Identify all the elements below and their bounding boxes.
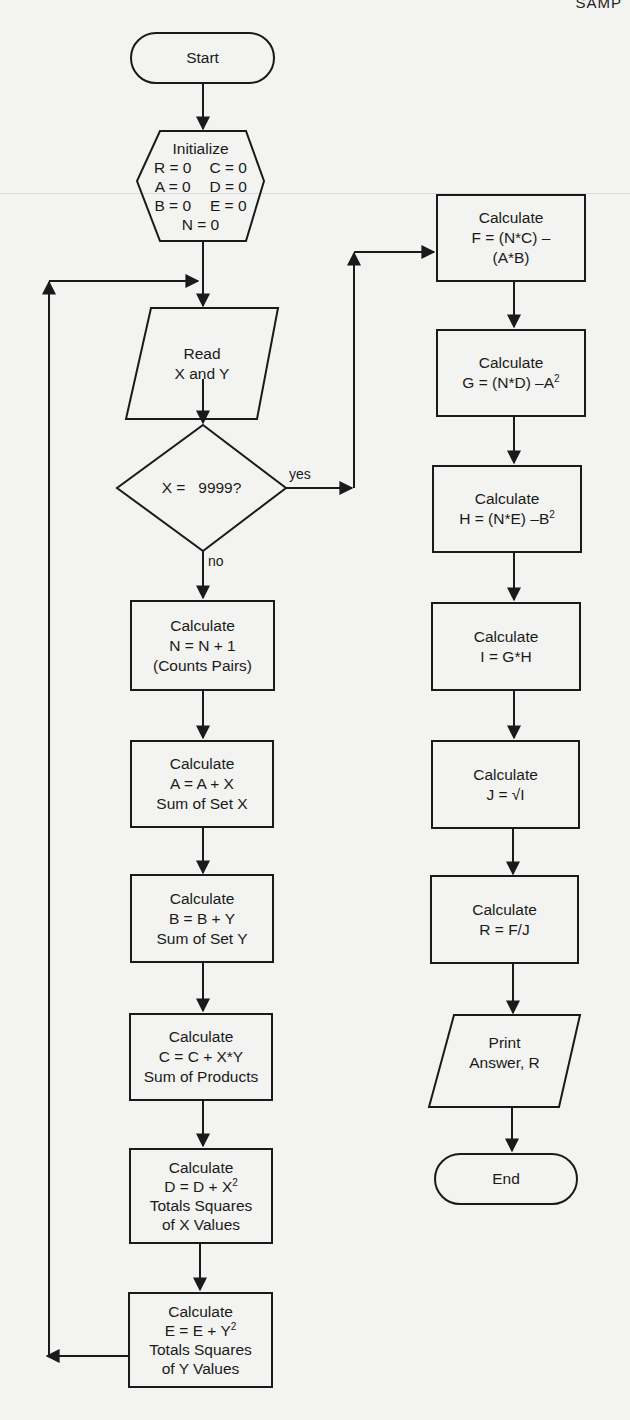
step-formula: I = G*H xyxy=(480,647,531,667)
step-title: Calculate xyxy=(170,889,235,909)
formula-base: G = (N*D) –A xyxy=(462,374,554,391)
step-title: Calculate xyxy=(475,489,540,509)
step-title: Calculate xyxy=(170,754,235,774)
step-formula: R = F/J xyxy=(479,920,529,940)
print-line2: Answer, R xyxy=(469,1053,540,1073)
formula-exponent: 2 xyxy=(554,373,560,384)
step-formula: G = (N*D) –A2 xyxy=(462,373,559,393)
step-title: Calculate xyxy=(472,900,537,920)
step-title: Calculate xyxy=(169,1158,234,1177)
start-terminal: Start xyxy=(130,32,275,84)
decision-no-label: no xyxy=(208,553,224,569)
step-formula: F = (N*C) – xyxy=(472,228,551,248)
decision-yes-label: yes xyxy=(289,466,311,482)
step-note: Totals Squares xyxy=(150,1196,253,1215)
formula-exponent: 2 xyxy=(549,509,555,520)
step-formula: N = N + 1 xyxy=(169,636,235,656)
step-title: Calculate xyxy=(473,765,538,785)
calc-c-box: Calculate C = C + X*Y Sum of Products xyxy=(129,1013,273,1101)
step-title: Calculate xyxy=(479,208,544,228)
step-title: Calculate xyxy=(170,616,235,636)
calc-f-box: Calculate F = (N*C) – (A*B) xyxy=(436,194,586,282)
init-c: C = 0 xyxy=(210,158,247,177)
step-formula-2: (A*B) xyxy=(492,248,529,268)
step-formula: J = √I xyxy=(486,785,524,805)
print-block: Print Answer, R xyxy=(429,1007,580,1099)
step-note-2: of Y Values xyxy=(162,1359,240,1378)
calc-h-box: Calculate H = (N*E) –B2 xyxy=(432,465,582,553)
init-b: B = 0 xyxy=(154,196,191,215)
init-r: R = 0 xyxy=(154,158,191,177)
end-label: End xyxy=(492,1169,520,1189)
step-title: Calculate xyxy=(168,1302,233,1321)
init-n: N = 0 xyxy=(182,215,219,234)
step-formula: B = B + Y xyxy=(169,909,235,929)
step-title: Calculate xyxy=(169,1027,234,1047)
step-note: Sum of Products xyxy=(144,1067,259,1087)
calc-a-box: Calculate A = A + X Sum of Set X xyxy=(130,740,274,828)
decision-block: X = 9999? xyxy=(117,425,286,551)
calc-d-box: Calculate D = D + X2 Totals Squares of X… xyxy=(129,1148,273,1244)
step-note: Sum of Set Y xyxy=(156,929,247,949)
calc-r-box: Calculate R = F/J xyxy=(430,875,579,964)
calc-g-box: Calculate G = (N*D) –A2 xyxy=(436,329,586,417)
print-line1: Print xyxy=(489,1033,521,1053)
calc-e-box: Calculate E = E + Y2 Totals Squares of Y… xyxy=(128,1292,273,1388)
end-terminal: End xyxy=(434,1153,578,1205)
step-note-2: of X Values xyxy=(162,1215,240,1234)
formula-exponent: 2 xyxy=(231,1321,237,1332)
step-note: (Counts Pairs) xyxy=(153,656,252,676)
step-formula: E = E + Y2 xyxy=(165,1321,237,1340)
formula-base: H = (N*E) –B xyxy=(459,510,549,527)
read-block: Read X and Y xyxy=(126,308,278,419)
init-e: E = 0 xyxy=(210,196,247,215)
step-formula: A = A + X xyxy=(170,774,234,794)
calc-n-box: Calculate N = N + 1 (Counts Pairs) xyxy=(130,600,275,691)
formula-base: E = E + Y xyxy=(165,1322,231,1339)
init-a: A = 0 xyxy=(154,177,191,196)
start-label: Start xyxy=(186,48,219,68)
initialize-assignments: R = 0 C = 0 A = 0 D = 0 B = 0 E = 0 xyxy=(154,158,247,215)
init-d: D = 0 xyxy=(210,177,247,196)
calc-j-box: Calculate J = √I xyxy=(431,740,580,829)
step-formula: D = D + X2 xyxy=(164,1177,238,1196)
read-line1: Read xyxy=(183,344,220,364)
calc-i-box: Calculate I = G*H xyxy=(431,602,581,691)
step-note: Sum of Set X xyxy=(156,794,247,814)
calc-b-box: Calculate B = B + Y Sum of Set Y xyxy=(130,874,274,963)
decision-label: X = 9999? xyxy=(162,478,242,498)
initialize-block: Initialize R = 0 C = 0 A = 0 D = 0 B = 0… xyxy=(137,131,264,241)
step-note: Totals Squares xyxy=(149,1340,252,1359)
read-line2: X and Y xyxy=(175,364,230,384)
step-formula: C = C + X*Y xyxy=(159,1047,243,1067)
initialize-title: Initialize xyxy=(173,139,229,158)
formula-exponent: 2 xyxy=(232,1177,238,1188)
step-title: Calculate xyxy=(479,353,544,373)
step-formula: H = (N*E) –B2 xyxy=(459,509,555,529)
formula-base: D = D + X xyxy=(164,1178,232,1195)
step-title: Calculate xyxy=(474,627,539,647)
